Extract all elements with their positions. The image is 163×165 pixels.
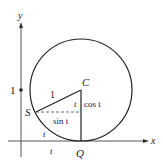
y-axis-label: y [17,10,23,21]
arc-label: t [43,129,46,139]
radius-label: 1 [50,89,55,100]
point-s-label: S [25,106,31,118]
x-axis-label: x [150,135,156,146]
point-c-label: C [82,76,90,88]
y-axis: y [17,10,23,157]
cos-label: cos t [84,99,101,109]
y-tick-label: 1 [10,84,16,96]
point-q-label: Q [76,147,84,159]
axis-segment-label: t [50,146,53,156]
angle-label: t [74,99,77,109]
cycloid-diagram: y x 1 C S Q 1 t cos t sin t t t [0,0,163,165]
y-axis-arrow-icon [19,22,23,28]
y-tick-dot [19,88,23,92]
x-axis-arrow-icon [143,139,149,143]
sin-label: sin t [53,116,69,126]
